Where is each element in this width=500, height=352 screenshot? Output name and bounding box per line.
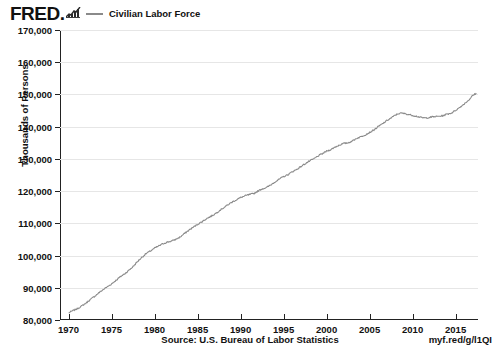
legend-item-label: Civilian Labor Force [109, 8, 200, 19]
plot-area: 170,000160,000150,000140,000130,000120,0… [60, 30, 478, 320]
series-civilian-labor-force [60, 30, 478, 320]
series-line [69, 93, 477, 313]
y-tick-label: 140,000 [18, 121, 52, 132]
y-tick-label: 110,000 [18, 218, 52, 229]
fred-chart: FRED. Civilian Labor Force Thousands of … [0, 0, 500, 352]
source-note: Source: U.S. Bureau of Labor Statistics [0, 334, 500, 345]
y-tick [55, 320, 60, 321]
y-tick-label: 100,000 [18, 250, 52, 261]
legend-line-swatch [86, 13, 103, 15]
y-tick-label: 130,000 [18, 153, 52, 164]
fred-logo-text: FRED. [10, 3, 65, 24]
y-tick-label: 170,000 [18, 25, 52, 36]
y-tick-label: 120,000 [18, 186, 52, 197]
sparkline-icon [66, 2, 81, 21]
y-tick-label: 80,000 [23, 315, 52, 326]
y-tick-label: 90,000 [23, 282, 52, 293]
fred-logo: FRED. [10, 2, 81, 23]
y-tick-label: 150,000 [18, 89, 52, 100]
y-tick-label: 160,000 [18, 57, 52, 68]
chart-legend: Civilian Labor Force [86, 8, 200, 19]
short-url-label: myf.red/g/l1QI [429, 334, 492, 345]
